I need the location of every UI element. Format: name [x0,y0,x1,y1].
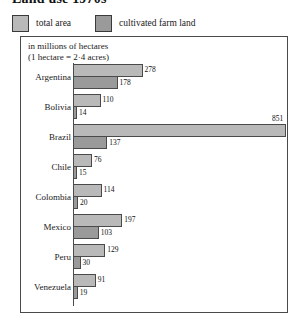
legend-item-label: total area [36,18,71,28]
legend-swatch-cultivated-farm-land [95,15,112,32]
chart-page: Land use 1970s total areacultivated farm… [0,0,305,329]
value-label-total-area: 851 [272,114,283,123]
units-note-line-2: (1 hectare = 2·4 acres) [28,52,109,63]
value-label-cultivated-farm-land: 20 [80,198,88,207]
country-label: Peru [21,252,71,262]
chart-row: Bolivia11014 [21,93,287,123]
bar-group: 278178 [73,63,287,93]
chart-legend: total areacultivated farm land [12,14,196,32]
value-label-cultivated-farm-land: 137 [109,138,120,147]
value-label-cultivated-farm-land: 14 [79,108,87,117]
bar-group: 851137 [73,123,287,153]
value-label-cultivated-farm-land: 19 [80,288,88,297]
country-label: Venezuela [21,282,71,292]
bar-cultivated-farm-land [73,166,77,179]
chart-row: Venezuela9119 [21,273,287,303]
country-label: Brazil [21,132,71,142]
legend-item: total area [12,15,71,32]
bar-cultivated-farm-land [73,256,81,269]
units-note-line-1: in millions of hectares [28,41,109,52]
bar-group: 9119 [73,273,287,303]
units-note: in millions of hectares (1 hectare = 2·4… [28,41,109,63]
value-label-cultivated-farm-land: 15 [79,168,87,177]
bar-rows: Argentina278178Bolivia11014Brazil851137C… [21,63,287,303]
value-label-cultivated-farm-land: 30 [83,258,91,267]
bar-cultivated-farm-land [73,226,99,239]
bar-group: 11014 [73,93,287,123]
value-label-total-area: 197 [124,215,135,224]
chart-row: Peru12930 [21,243,287,273]
bar-cultivated-farm-land [73,286,78,299]
bar-cultivated-farm-land [73,76,118,89]
country-label: Argentina [21,72,71,82]
bar-group: 7615 [73,153,287,183]
country-label: Chile [21,162,71,172]
country-label: Bolivia [21,102,71,112]
chart-row: Colombia11420 [21,183,287,213]
chart-frame: in millions of hectares (1 hectare = 2·4… [20,36,288,313]
page-title: Land use 1970s [12,0,107,7]
bar-cultivated-farm-land [73,106,77,119]
bar-cultivated-farm-land [73,136,107,149]
chart-row: Chile7615 [21,153,287,183]
value-label-total-area: 110 [103,95,114,104]
bar-total-area [73,94,101,107]
value-label-total-area: 76 [94,155,102,164]
bar-group: 11420 [73,183,287,213]
value-label-total-area: 278 [145,65,156,74]
bar-cultivated-farm-land [73,196,78,209]
bar-group: 197103 [73,213,287,243]
value-label-cultivated-farm-land: 103 [101,228,112,237]
value-label-cultivated-farm-land: 178 [120,78,131,87]
legend-swatch-total-area [12,15,29,32]
country-label: Colombia [21,192,71,202]
country-label: Mexico [21,222,71,232]
value-label-total-area: 129 [107,245,118,254]
value-label-total-area: 91 [98,275,106,284]
chart-row: Mexico197103 [21,213,287,243]
chart-row: Brazil851137 [21,123,287,153]
bar-group: 12930 [73,243,287,273]
value-label-total-area: 114 [104,185,115,194]
chart-row: Argentina278178 [21,63,287,93]
legend-item-label: cultivated farm land [119,18,196,28]
legend-item: cultivated farm land [95,15,196,32]
